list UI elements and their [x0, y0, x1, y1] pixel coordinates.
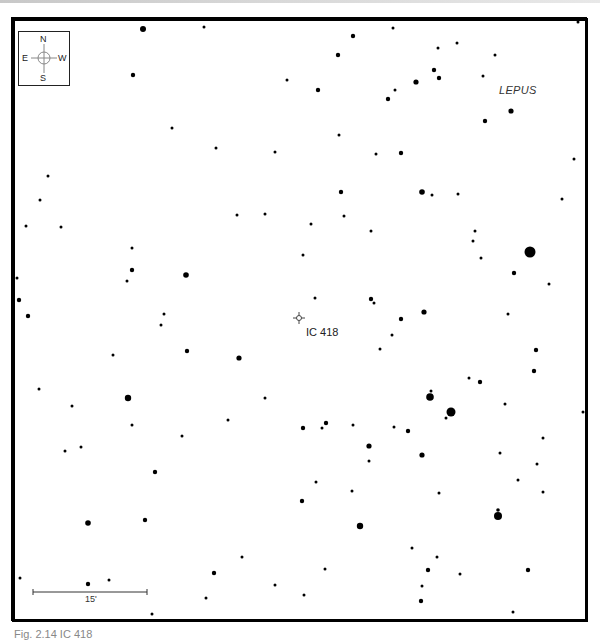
star-point — [508, 108, 513, 113]
star-point — [494, 54, 497, 57]
star-point — [153, 470, 157, 474]
star-point — [419, 452, 424, 457]
star-point — [369, 297, 373, 301]
star-point — [399, 151, 403, 155]
star-point — [301, 426, 305, 430]
star-point — [393, 426, 396, 429]
star-point — [131, 247, 134, 250]
star-point — [227, 419, 230, 422]
star-point — [140, 26, 146, 32]
star-point — [512, 611, 515, 614]
star-point — [131, 424, 134, 427]
star-point — [143, 518, 147, 522]
star-point — [108, 579, 111, 582]
scale-bar-label: 15' — [85, 594, 97, 604]
star-point — [582, 411, 585, 414]
star-point — [459, 573, 462, 576]
star-point — [47, 175, 50, 178]
star-point — [302, 254, 305, 257]
star-point — [421, 309, 426, 314]
star-point — [112, 354, 115, 357]
star-point — [321, 427, 324, 430]
star-point — [85, 520, 91, 526]
star-point — [447, 408, 456, 417]
star-point — [316, 88, 320, 92]
star-point — [336, 53, 340, 57]
star-point — [241, 556, 244, 559]
star-point — [474, 230, 477, 233]
star-point — [419, 599, 423, 603]
star-point — [274, 151, 277, 154]
star-point — [26, 314, 30, 318]
star-point — [203, 26, 206, 29]
star-point — [472, 240, 475, 243]
star-point — [392, 27, 395, 30]
star-point — [274, 584, 277, 587]
star-point — [437, 76, 441, 80]
star-point — [534, 348, 538, 352]
star-point — [25, 225, 28, 228]
star-point — [432, 68, 436, 72]
star-point — [468, 377, 471, 380]
star-point — [212, 571, 216, 575]
star-point — [426, 568, 430, 572]
star-point — [368, 460, 371, 463]
star-point — [391, 334, 394, 337]
figure-caption: Fig. 2.14 IC 418 — [14, 628, 92, 640]
star-point — [339, 190, 343, 194]
star-point — [338, 134, 341, 137]
star-point — [525, 247, 536, 258]
star-point — [386, 97, 390, 101]
star-point — [457, 193, 460, 196]
star-point — [436, 556, 439, 559]
star-point — [542, 437, 545, 440]
target-object-label: IC 418 — [306, 326, 338, 338]
star-point — [264, 397, 267, 400]
star-point — [512, 271, 516, 275]
star-point — [126, 280, 129, 283]
star-point — [16, 277, 19, 280]
compass-rose: N S E W — [18, 31, 70, 86]
star-point — [181, 435, 184, 438]
star-point — [357, 523, 363, 529]
star-point — [577, 21, 580, 24]
star-point — [185, 349, 189, 353]
star-point — [438, 492, 441, 495]
star-point — [499, 452, 502, 455]
star-point — [19, 577, 22, 580]
star-point — [366, 443, 371, 448]
compass-west-label: W — [58, 54, 67, 63]
star-point — [413, 79, 418, 84]
star-point — [171, 127, 174, 130]
star-point — [437, 47, 440, 50]
star-point — [310, 223, 313, 226]
star-point — [419, 189, 425, 195]
star-point — [300, 499, 304, 503]
star-point — [507, 313, 510, 316]
star-point — [542, 491, 545, 494]
star-point — [236, 214, 239, 217]
star-point — [411, 547, 414, 550]
star-point — [532, 369, 536, 373]
compass-east-label: E — [22, 54, 28, 63]
star-point — [38, 388, 41, 391]
star-point — [131, 73, 135, 77]
star-point — [526, 568, 530, 572]
constellation-label: LEPUS — [499, 84, 537, 96]
star-point — [375, 153, 378, 156]
compass-south-label: S — [40, 74, 46, 83]
star-point — [394, 89, 397, 92]
star-point — [264, 213, 267, 216]
star-point — [39, 199, 42, 202]
star-point — [478, 380, 482, 384]
star-point — [303, 594, 306, 597]
star-point — [480, 257, 483, 260]
star-point — [352, 424, 355, 427]
star-point — [343, 215, 346, 218]
star-point — [536, 463, 539, 466]
star-point — [163, 313, 166, 316]
star-point — [324, 568, 327, 571]
star-point — [151, 613, 154, 616]
star-point — [379, 348, 382, 351]
star-point — [483, 119, 487, 123]
